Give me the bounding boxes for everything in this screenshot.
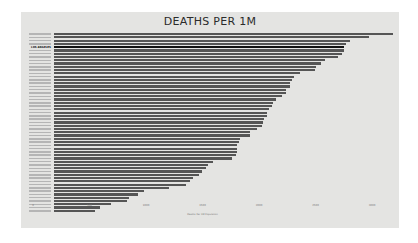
bar-row <box>54 144 393 146</box>
category-label <box>29 168 51 169</box>
x-tick-label: 2000 <box>256 204 263 207</box>
bar <box>54 79 292 81</box>
category-label <box>29 99 51 100</box>
bar-row <box>54 128 393 130</box>
bar-row <box>54 174 393 176</box>
category-label <box>29 73 51 74</box>
bar-row <box>54 200 393 202</box>
bar-row <box>54 184 393 186</box>
x-axis: 050010001500200025003000 <box>33 204 372 212</box>
category-label <box>29 171 51 172</box>
bar <box>54 174 199 176</box>
bar <box>54 164 208 166</box>
category-label <box>29 89 51 90</box>
category-label <box>29 141 51 142</box>
category-label <box>29 184 51 185</box>
bar-row <box>54 85 393 87</box>
bar-row <box>54 98 393 100</box>
bar <box>54 89 286 91</box>
bar <box>54 112 267 114</box>
x-tick-label: 3000 <box>369 204 376 207</box>
bar-row <box>54 66 393 68</box>
bar-row <box>54 157 393 159</box>
bar <box>54 121 263 123</box>
bar-row <box>54 131 393 133</box>
category-label <box>29 92 51 93</box>
bar <box>54 180 190 182</box>
category-label <box>29 158 51 159</box>
category-label <box>29 53 51 54</box>
category-label <box>29 40 51 41</box>
category-label <box>29 151 51 152</box>
category-label <box>29 115 51 116</box>
category-label <box>29 164 51 165</box>
bar <box>54 105 272 107</box>
x-tick-label: 0 <box>32 204 34 207</box>
bar-row <box>54 49 393 51</box>
category-label <box>29 102 51 103</box>
bar <box>54 82 290 84</box>
chart-title: DEATHS PER 1M <box>21 15 399 28</box>
category-label <box>29 161 51 162</box>
bar <box>54 161 213 163</box>
bar-row <box>54 187 393 189</box>
bar <box>54 115 267 117</box>
category-label <box>29 190 51 191</box>
category-label <box>29 37 51 38</box>
bar <box>54 108 269 110</box>
category-label <box>29 109 51 110</box>
bar <box>54 33 393 35</box>
bar-row <box>54 72 393 74</box>
bar-row <box>54 108 393 110</box>
chart-slide: DEATHS PER 1M LOS ANGELES <box>21 12 399 228</box>
bar-row <box>54 164 393 166</box>
bar-row <box>54 79 393 81</box>
bar <box>54 187 169 189</box>
bar <box>54 72 300 74</box>
category-label <box>29 187 51 188</box>
category-label <box>29 194 51 195</box>
plot-area: LOS ANGELES <box>54 33 393 213</box>
bar <box>54 138 240 140</box>
bar <box>54 56 338 58</box>
category-label <box>29 66 51 67</box>
bar-row <box>54 190 393 192</box>
bar-row <box>54 33 393 35</box>
bar-row <box>54 56 393 58</box>
bar <box>54 125 262 127</box>
bar <box>54 46 344 48</box>
category-label <box>29 148 51 149</box>
bar-row <box>54 102 393 104</box>
bar <box>54 148 237 150</box>
bar-row <box>54 92 393 94</box>
bar <box>54 76 294 78</box>
bar <box>54 157 232 159</box>
category-label <box>29 105 51 106</box>
category-label <box>29 122 51 123</box>
bar <box>54 177 193 179</box>
category-label <box>29 69 51 70</box>
category-label <box>29 43 51 44</box>
bar-row <box>54 193 393 195</box>
bar-row <box>54 177 393 179</box>
bar-row <box>54 125 393 127</box>
category-label <box>29 154 51 155</box>
category-label <box>29 177 51 178</box>
bar-row <box>54 105 393 107</box>
bar-row <box>54 134 393 136</box>
bar-row <box>54 53 393 55</box>
bar <box>54 98 276 100</box>
bar-row <box>54 118 393 120</box>
bar <box>54 49 344 51</box>
category-label <box>29 145 51 146</box>
bar-row <box>54 115 393 117</box>
bar-row <box>54 43 393 45</box>
bar <box>54 131 250 133</box>
bar-row <box>54 161 393 163</box>
x-tick-label: 1500 <box>199 204 206 207</box>
category-label <box>29 60 51 61</box>
bar-row <box>54 180 393 182</box>
bar-row: LOS ANGELES <box>54 46 393 48</box>
category-label <box>29 79 51 80</box>
bar-row <box>54 197 393 199</box>
